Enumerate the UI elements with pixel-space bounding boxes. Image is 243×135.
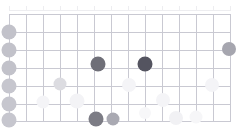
bubble-ghost-8[interactable] xyxy=(139,107,151,119)
bubble-dark-a[interactable] xyxy=(91,57,106,72)
bubble-dark-b[interactable] xyxy=(138,57,153,72)
bubble-layer xyxy=(0,0,243,135)
bubble-bottom-dark[interactable] xyxy=(89,112,104,127)
bubble-right-edge[interactable] xyxy=(222,42,236,56)
bubble-matrix-plot xyxy=(0,0,243,135)
bubble-mid-left[interactable] xyxy=(54,78,67,91)
bubble-ghost-1[interactable] xyxy=(37,96,50,109)
bubble-ghost-2[interactable] xyxy=(70,94,85,109)
bubble-ghost-7[interactable] xyxy=(190,111,203,124)
bubble-row-5-axis[interactable] xyxy=(2,97,17,112)
bubble-row-2-axis[interactable] xyxy=(2,43,17,58)
bubble-ghost-4[interactable] xyxy=(156,93,170,107)
bubble-ghost-6[interactable] xyxy=(169,111,183,125)
bubble-row-1-axis[interactable] xyxy=(2,25,17,40)
bubble-ghost-5[interactable] xyxy=(205,78,219,92)
bubble-row-4-axis[interactable] xyxy=(2,79,17,94)
bubble-row-3-axis[interactable] xyxy=(2,61,17,76)
bubble-ghost-3[interactable] xyxy=(122,78,136,92)
bubble-bottom-mid[interactable] xyxy=(107,113,120,126)
bubble-row-6-axis[interactable] xyxy=(2,113,17,128)
